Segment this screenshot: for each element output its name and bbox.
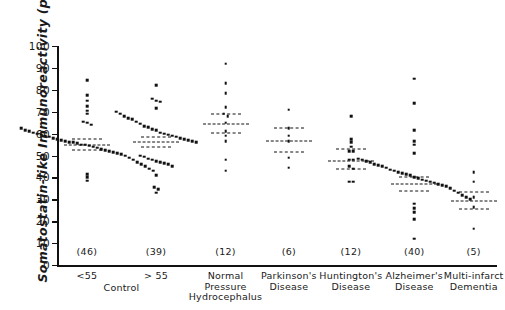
sem-line xyxy=(459,209,489,210)
data-point xyxy=(195,141,198,144)
data-point xyxy=(224,62,227,65)
y-tick-label: 10 xyxy=(36,237,50,249)
sample-size-label: (6) xyxy=(282,246,296,257)
data-point xyxy=(52,137,55,140)
data-point xyxy=(373,163,376,166)
data-point xyxy=(171,165,174,168)
data-point xyxy=(449,187,452,190)
data-point xyxy=(159,101,162,104)
mean-line xyxy=(266,141,312,142)
sem-line xyxy=(72,139,102,140)
data-point xyxy=(86,99,89,102)
sem-line xyxy=(141,146,171,147)
data-point xyxy=(127,117,130,120)
y-tick xyxy=(52,90,58,91)
data-point xyxy=(86,113,89,116)
data-point xyxy=(90,124,93,127)
mean-line xyxy=(64,144,110,145)
data-point xyxy=(441,184,444,187)
data-point xyxy=(348,150,351,153)
data-point xyxy=(171,134,174,137)
data-point xyxy=(352,180,355,183)
group-caption-line: Parkinson's xyxy=(261,271,317,282)
data-point xyxy=(350,115,353,118)
data-point xyxy=(143,155,146,158)
group-caption-line: Dementia xyxy=(444,282,504,293)
data-point xyxy=(128,156,131,159)
y-tick-label: 50 xyxy=(36,150,50,162)
data-point xyxy=(124,154,127,157)
y-tick xyxy=(52,199,58,200)
data-point xyxy=(288,166,291,169)
data-point xyxy=(86,94,89,97)
data-point xyxy=(92,145,95,148)
data-point xyxy=(24,129,27,132)
data-point xyxy=(385,166,388,169)
data-point xyxy=(405,173,408,176)
sem-line xyxy=(274,152,304,153)
y-tick xyxy=(52,46,58,47)
mean-line xyxy=(451,201,497,202)
data-point xyxy=(148,167,151,170)
y-tick xyxy=(52,134,58,135)
mean-line xyxy=(203,123,249,124)
sem-line xyxy=(211,113,241,114)
data-point xyxy=(425,179,428,182)
data-point xyxy=(153,186,156,189)
data-point xyxy=(461,194,464,197)
data-point xyxy=(187,139,190,142)
data-point xyxy=(155,174,158,177)
data-point xyxy=(401,172,404,175)
y-tick xyxy=(52,265,58,266)
group-caption-line: Disease xyxy=(319,282,382,293)
y-tick xyxy=(52,156,58,157)
data-point xyxy=(86,79,89,82)
data-point xyxy=(453,189,456,192)
sem-line xyxy=(274,128,304,129)
sem-line xyxy=(336,148,366,149)
data-point xyxy=(144,165,147,168)
data-point xyxy=(226,115,229,118)
data-point xyxy=(151,159,154,162)
data-point xyxy=(445,185,448,188)
data-point xyxy=(155,107,158,110)
data-point xyxy=(86,121,89,124)
data-point xyxy=(86,109,89,112)
data-point xyxy=(152,170,155,173)
data-point xyxy=(348,180,351,183)
data-point xyxy=(140,163,143,166)
sem-line xyxy=(72,150,102,151)
data-point xyxy=(56,138,59,141)
data-point xyxy=(112,151,115,154)
y-tick-label: 20 xyxy=(36,215,50,227)
data-point xyxy=(159,131,162,134)
data-point xyxy=(224,106,227,109)
group-caption: <55 xyxy=(77,271,98,282)
data-point xyxy=(147,126,150,129)
data-point xyxy=(108,150,111,153)
data-point xyxy=(413,237,416,240)
sem-line xyxy=(399,177,429,178)
y-tick-label: 0 xyxy=(43,259,50,271)
data-point xyxy=(413,207,416,210)
mean-line xyxy=(328,160,374,161)
data-point xyxy=(224,159,227,162)
data-point xyxy=(350,138,353,141)
group-caption-line: Disease xyxy=(386,282,443,293)
sample-size-label: (12) xyxy=(215,246,236,257)
data-point xyxy=(397,171,400,174)
data-point xyxy=(40,133,43,136)
data-point xyxy=(155,129,158,132)
data-point xyxy=(472,196,475,199)
data-point xyxy=(393,170,396,173)
group-caption-line: Disease xyxy=(261,282,317,293)
data-point xyxy=(120,153,123,156)
data-point xyxy=(147,157,150,160)
data-point xyxy=(139,122,142,125)
group-caption-line: Normal xyxy=(189,271,262,282)
data-point xyxy=(48,136,51,139)
data-point xyxy=(224,140,227,143)
group-caption-line: > 55 xyxy=(144,271,168,282)
data-point xyxy=(381,165,384,168)
control-group-label: Control xyxy=(104,282,140,293)
